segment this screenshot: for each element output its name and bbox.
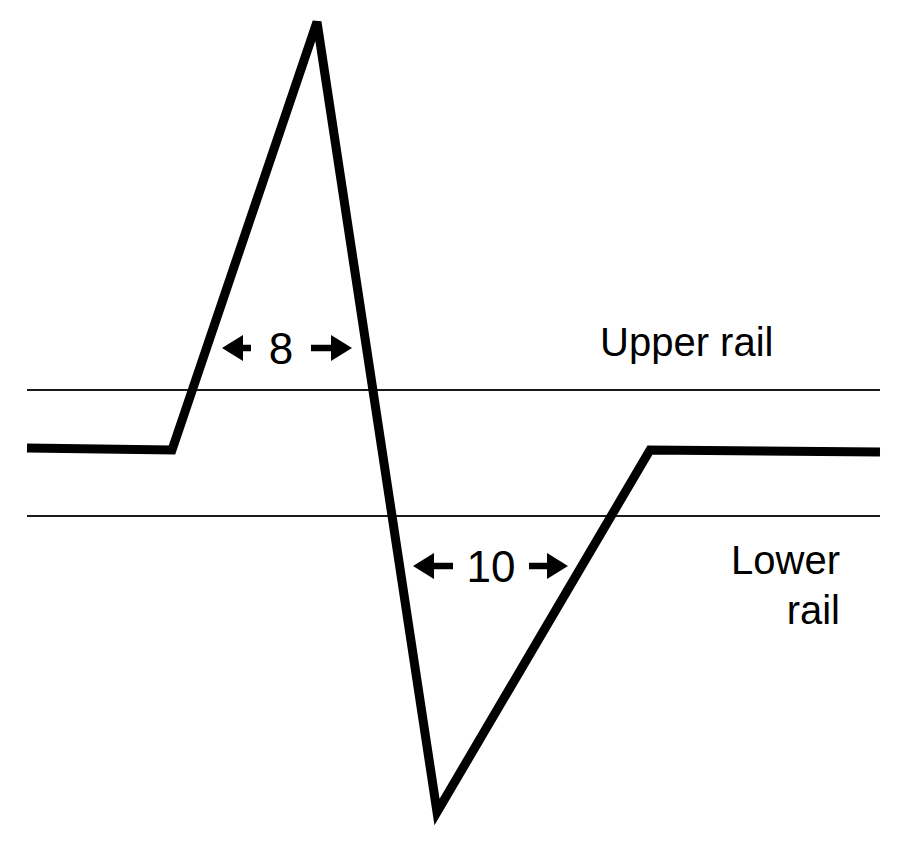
dimension-annotation-10: 10	[413, 542, 568, 591]
dim-8-arrowhead-right-icon	[331, 335, 352, 361]
waveform-trace	[27, 22, 880, 812]
dim-10-arrowhead-left-icon	[413, 553, 434, 579]
dim-8-arrowhead-left-icon	[222, 335, 243, 361]
dimension-annotation-8: 8	[222, 324, 352, 373]
slew-rate-diagram: 8 10 Upper rail Lower rail	[0, 0, 897, 842]
dim-10-arrowhead-right-icon	[547, 553, 568, 579]
waveform-canvas: 8 10 Upper rail Lower rail	[0, 0, 897, 842]
waveform-group	[27, 22, 880, 812]
lower-rail-label-line2: rail	[787, 588, 840, 632]
lower-rail-label-line1: Lower	[731, 538, 840, 582]
upper-rail-label: Upper rail	[600, 320, 773, 364]
dimension-value-10: 10	[467, 542, 516, 591]
dimension-value-8: 8	[269, 324, 293, 373]
